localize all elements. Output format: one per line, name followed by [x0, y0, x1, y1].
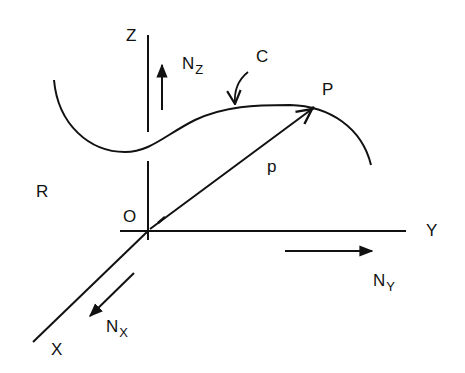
origin-label: O — [123, 208, 136, 225]
origin-arrow-mark — [158, 217, 165, 223]
nx-label-main: N — [106, 317, 118, 336]
point-p-label: P — [322, 81, 333, 98]
point-p-dot — [311, 106, 315, 110]
ny-label-sub: Y — [386, 279, 395, 294]
diagram-canvas — [0, 0, 465, 373]
frame-r-label: R — [36, 183, 48, 200]
nz-label-main: N — [182, 54, 194, 73]
vector-p-label: p — [267, 158, 276, 175]
nx-label-sub: X — [119, 325, 128, 340]
x-axis-label: X — [51, 341, 62, 358]
z-axis-label: Z — [126, 27, 136, 44]
ny-label: NY — [373, 272, 395, 289]
curve-c-label: C — [256, 48, 268, 65]
x-axis — [33, 231, 148, 342]
nx-label: NX — [106, 318, 128, 335]
curve-c-pointer-arrow — [235, 72, 248, 104]
y-axis-label: Y — [426, 222, 437, 239]
position-vector-p — [150, 109, 312, 229]
nz-label-sub: Z — [195, 62, 203, 77]
ny-label-main: N — [373, 271, 385, 290]
nz-label: NZ — [182, 55, 203, 72]
